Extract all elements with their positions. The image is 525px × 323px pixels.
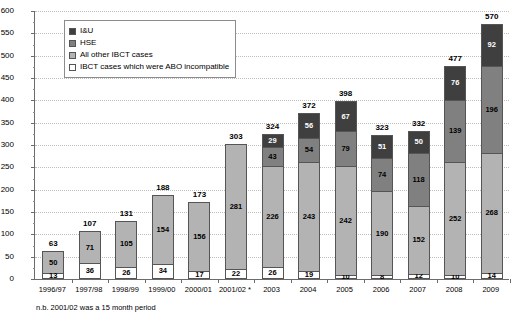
bar-segment-value: 26 — [122, 269, 130, 277]
bar-segment-value: 67 — [341, 113, 349, 121]
bar-segment-value: 50 — [414, 138, 422, 146]
bar-group[interactable]: 26105131 — [115, 221, 137, 280]
bar-total-label: 477 — [444, 55, 466, 63]
bar-group[interactable]: 22281303 — [225, 144, 247, 279]
bar-segment[interactable]: 22 — [225, 269, 247, 279]
bar-segment[interactable]: 54 — [298, 138, 320, 162]
y-axis-minor-tick — [33, 22, 35, 23]
bar-segment[interactable]: 10 — [444, 275, 466, 279]
bar-group[interactable]: 3671107 — [79, 231, 101, 279]
bar-group[interactable]: 34154188 — [152, 195, 174, 279]
x-axis-category-label: 2007 — [399, 285, 436, 294]
bar-segment[interactable]: 29 — [262, 134, 284, 147]
bar-segment-value: 226 — [266, 213, 279, 221]
bar-segment[interactable]: 71 — [79, 231, 101, 263]
bar-segment-value: 156 — [193, 233, 206, 241]
bar-segment-value: 17 — [195, 271, 203, 279]
bar-segment-value: 43 — [268, 153, 276, 161]
x-axis-tick — [291, 279, 292, 283]
y-axis-tick — [31, 100, 35, 101]
bar-segment[interactable]: 76 — [444, 66, 466, 100]
bar-group[interactable]: 17156173 — [188, 202, 210, 279]
bar-segment[interactable]: 51 — [371, 135, 393, 158]
bar-segment[interactable]: 154 — [152, 195, 174, 264]
bar-segment[interactable]: 226 — [262, 166, 284, 267]
bar-segment[interactable]: 281 — [225, 144, 247, 270]
bar-segment-value: 242 — [339, 217, 352, 225]
bar-segment[interactable]: 36 — [79, 263, 101, 279]
bar-segment[interactable]: 26 — [115, 267, 137, 279]
legend-swatch-other-ibct — [69, 52, 76, 59]
bar-group[interactable]: 1215211850332 — [408, 131, 430, 279]
stacked-bar-chart: 0501001502002503003504004505005506001350… — [0, 0, 525, 323]
bar-segment[interactable]: 50 — [408, 131, 430, 153]
bar-segment-value: 105 — [120, 240, 133, 248]
bar-segment[interactable]: 105 — [115, 221, 137, 268]
y-axis-minor-tick — [33, 201, 35, 202]
bar-group[interactable]: 1025213976477 — [444, 66, 466, 279]
bar-stack: 262264329 — [262, 134, 284, 279]
bar-segment[interactable]: 8 — [371, 275, 393, 279]
bar-segment[interactable]: 13 — [42, 273, 64, 279]
legend-item: IBCT cases which were ABO incompatible — [69, 61, 229, 73]
bar-group[interactable]: 102427967398 — [335, 101, 357, 279]
bar-segment[interactable]: 26 — [262, 267, 284, 279]
y-axis-tick-label: 300 — [0, 141, 14, 149]
bar-group[interactable]: 262264329324 — [262, 134, 284, 279]
bar-segment[interactable]: 17 — [188, 271, 210, 279]
legend-swatch-hse — [69, 40, 76, 47]
bar-segment[interactable]: 252 — [444, 162, 466, 275]
bar-segment-value: 56 — [305, 122, 313, 130]
y-axis-tick-label: 450 — [0, 74, 14, 82]
bar-segment[interactable]: 79 — [335, 131, 357, 166]
y-axis-minor-tick — [33, 45, 35, 46]
bar-segment[interactable]: 14 — [481, 273, 503, 279]
x-axis-category-label: 2008 — [436, 285, 473, 294]
bar-segment[interactable]: 74 — [371, 158, 393, 191]
y-axis-minor-tick — [33, 67, 35, 68]
bar-segment[interactable]: 242 — [335, 166, 357, 274]
bar-segment[interactable]: 56 — [298, 113, 320, 138]
bar-segment[interactable]: 196 — [481, 66, 503, 154]
y-axis-tick-label: 600 — [0, 7, 14, 15]
bar-group[interactable]: 81907451323 — [371, 135, 393, 279]
bar-stack: 22281 — [225, 144, 247, 279]
bar-segment-value: 29 — [268, 137, 276, 145]
x-axis-category-label: 1999/00 — [144, 285, 181, 294]
x-axis-tick — [218, 279, 219, 283]
bar-stack: 102427967 — [335, 101, 357, 279]
bar-total-label: 324 — [262, 123, 284, 131]
bar-group[interactable]: 135063 — [42, 251, 64, 279]
bar-segment[interactable]: 19 — [298, 271, 320, 279]
bar-segment-value: 74 — [378, 171, 386, 179]
bar-segment-value: 51 — [378, 143, 386, 151]
bar-segment-value: 268 — [485, 209, 498, 217]
y-axis-minor-tick — [33, 156, 35, 157]
bar-segment[interactable]: 268 — [481, 153, 503, 273]
bar-stack: 34154 — [152, 195, 174, 279]
bar-segment[interactable]: 43 — [262, 147, 284, 166]
y-axis-tick-label: 400 — [0, 96, 14, 104]
bar-segment[interactable]: 156 — [188, 202, 210, 272]
x-axis-category-label: 2006 — [363, 285, 400, 294]
x-axis-tick — [72, 279, 73, 283]
bar-total-label: 303 — [225, 133, 247, 141]
y-axis-tick-label: 150 — [0, 208, 14, 216]
bar-segment[interactable]: 12 — [408, 274, 430, 279]
bar-segment[interactable]: 34 — [152, 264, 174, 279]
bar-group[interactable]: 1426819692570 — [481, 24, 503, 279]
bar-group[interactable]: 192435456372 — [298, 113, 320, 279]
bar-segment[interactable]: 10 — [335, 275, 357, 279]
bar-segment[interactable]: 92 — [481, 24, 503, 65]
bar-segment[interactable]: 139 — [444, 100, 466, 162]
y-axis-tick-label: 350 — [0, 119, 14, 127]
bar-segment[interactable]: 243 — [298, 162, 320, 271]
bar-segment-value: 13 — [49, 272, 57, 280]
bar-segment[interactable]: 190 — [371, 191, 393, 276]
bar-segment[interactable]: 67 — [335, 101, 357, 131]
bar-segment[interactable]: 50 — [42, 251, 64, 273]
bar-segment-value: 54 — [305, 146, 313, 154]
gridline — [35, 11, 509, 12]
bar-segment[interactable]: 118 — [408, 153, 430, 206]
bar-segment[interactable]: 152 — [408, 206, 430, 274]
